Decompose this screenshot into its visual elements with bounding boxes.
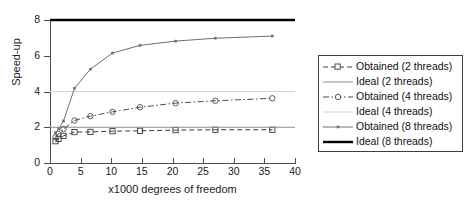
- data-point: [271, 35, 274, 38]
- legend-item[interactable]: Obtained (4 threads): [319, 89, 462, 104]
- legend-item[interactable]: Ideal (2 threads): [319, 74, 462, 89]
- data-point: [214, 37, 217, 40]
- legend-label: Obtained (8 threads): [356, 121, 452, 132]
- data-point: [174, 40, 177, 43]
- data-point: [57, 128, 60, 131]
- series-2: [53, 96, 275, 140]
- data-point: [72, 129, 77, 134]
- data-point: [111, 52, 114, 55]
- x-axis-label: x1000 degrees of freedom: [50, 183, 295, 195]
- data-point: [89, 68, 92, 71]
- legend-item[interactable]: Ideal (4 threads): [319, 104, 462, 119]
- data-point: [73, 87, 76, 90]
- legend-label: Obtained (4 threads): [356, 91, 452, 102]
- legend-swatch-icon: [322, 105, 354, 119]
- legend-item[interactable]: Obtained (8 threads): [319, 119, 462, 134]
- chart-legend: Obtained (2 threads)Ideal (2 threads)Obt…: [318, 55, 463, 152]
- legend-swatch-icon: [322, 135, 354, 149]
- legend-item[interactable]: Obtained (2 threads): [319, 59, 462, 74]
- legend-swatch-icon: [322, 120, 354, 134]
- legend-swatch-icon: [322, 90, 354, 104]
- data-point: [54, 131, 57, 134]
- legend-label: Obtained (2 threads): [356, 61, 452, 72]
- data-point: [270, 96, 275, 101]
- data-point: [139, 44, 142, 47]
- chart-figure: Speed-up 02468 0510152025303540 x1000 de…: [0, 0, 469, 208]
- legend-item[interactable]: Ideal (8 threads): [319, 134, 462, 149]
- legend-swatch-icon: [322, 60, 354, 74]
- legend-label: Ideal (8 threads): [356, 136, 432, 147]
- legend-label: Ideal (2 threads): [356, 76, 432, 87]
- series-4: [54, 35, 273, 134]
- data-point: [62, 120, 65, 123]
- series-0: [53, 127, 275, 144]
- legend-swatch-icon: [322, 75, 354, 89]
- legend-label: Ideal (4 threads): [356, 106, 432, 117]
